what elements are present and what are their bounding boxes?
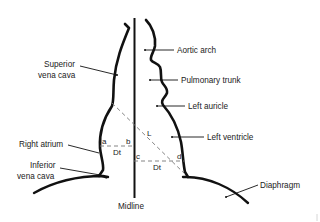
label-diaphragm: Diaphragm <box>260 181 300 190</box>
point-b: b <box>126 137 131 146</box>
left-auricle-leader-dot <box>156 105 158 107</box>
svc-leader-dot <box>116 74 118 76</box>
right-atrium-leader <box>68 145 99 153</box>
svc-leader <box>80 66 117 75</box>
long-axis-line <box>112 103 187 176</box>
label-right-atrium: Right atrium <box>19 140 63 149</box>
label-aortic-arch: Aortic arch <box>177 46 217 55</box>
label-inferior-vena-cava-2: vena cava <box>17 172 55 181</box>
point-a: a <box>102 137 107 146</box>
label-dt-right: Dt <box>113 148 122 157</box>
label-superior-vena-cava-2: vena cava <box>38 71 76 80</box>
label-pulmonary-trunk: Pulmonary trunk <box>181 76 242 85</box>
aortic-arch-leader-dot <box>144 49 146 51</box>
label-left-auricle: Left auricle <box>188 102 228 111</box>
label-superior-vena-cava-1: Superior <box>44 60 75 69</box>
point-c: c <box>136 152 140 161</box>
heart-diagram: Superior vena cava Aortic arch Pulmonary… <box>0 0 320 222</box>
point-d: d <box>177 152 181 161</box>
label-left-ventricle: Left ventricle <box>207 133 254 142</box>
label-long-axis: L <box>147 129 152 138</box>
pulmonary-trunk-leader-dot <box>149 79 151 81</box>
diagram-svg: Superior vena cava Aortic arch Pulmonary… <box>0 0 320 222</box>
left-ventricle-leader-dot <box>171 136 173 138</box>
left-heart-border <box>146 20 188 177</box>
label-dt-left: Dt <box>153 163 162 172</box>
label-inferior-vena-cava-1: Inferior <box>30 161 56 170</box>
left-hemidiaphragm <box>183 177 248 203</box>
diaphragm-leader-dot <box>225 196 227 198</box>
label-midline: Midline <box>118 202 144 211</box>
ivc-leader <box>60 168 100 175</box>
